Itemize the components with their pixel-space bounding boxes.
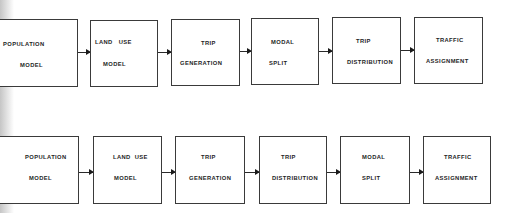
box-label-line2: GENERATION — [180, 60, 239, 66]
box-modal-split: MODAL SPLIT — [340, 136, 410, 204]
box-land-use-model: LAND USE MODEL — [93, 136, 162, 204]
arrow-right — [79, 172, 93, 173]
box-label-line2: MODEL — [103, 61, 157, 67]
box-trip-generation: TRIP GENERATION — [175, 136, 245, 204]
box-label-line2: ASSIGNMENT — [435, 175, 490, 181]
box-label-line1: TRIP — [201, 154, 244, 160]
box-label-line1: TRIP — [281, 154, 326, 160]
arrow-right — [162, 172, 175, 173]
box-label-line2: DISTRIBUTION — [272, 175, 326, 181]
arrow-right — [319, 51, 332, 52]
box-traffic-assignment: TRAFFIC ASSIGNMENT — [423, 136, 491, 204]
box-label-line2: MODEL — [29, 175, 78, 181]
arrow-right — [327, 172, 340, 173]
box-label-line1: POPULATION — [3, 41, 77, 47]
box-population-model: POPULATION MODEL — [0, 136, 79, 204]
box-population-model: POPULATION MODEL — [0, 19, 78, 87]
box-label-line1: TRIP — [201, 40, 239, 46]
box-traffic-assignment: TRAFFIC ASSIGNMENT — [414, 17, 483, 84]
box-label-line2: DISTRIBUTION — [347, 59, 400, 65]
box-trip-distribution: TRIP DISTRIBUTION — [332, 17, 401, 84]
box-label-line2: SPLIT — [362, 175, 409, 181]
arrow-right — [401, 50, 414, 51]
arrow-right — [240, 51, 251, 52]
box-label-line1: MODAL — [271, 39, 318, 45]
arrow-right — [245, 172, 259, 173]
box-label-line1: LAND USE — [113, 154, 161, 160]
box-label-line1: POPULATION — [25, 154, 78, 160]
box-label-line2: GENERATION — [189, 175, 244, 181]
box-label-line1: LAND USE — [95, 39, 157, 45]
arrow-right — [410, 172, 423, 173]
box-label-line1: TRAFFIC — [444, 154, 490, 160]
box-label-line2: ASSIGNMENT — [426, 58, 482, 64]
arrow-right — [78, 52, 90, 53]
box-label-line2: MODEL — [20, 62, 77, 68]
box-label-line1: TRAFFIC — [436, 37, 482, 43]
box-label-line1: TRIP — [356, 38, 400, 44]
box-label-line2: SPLIT — [269, 60, 318, 66]
box-trip-distribution: TRIP DISTRIBUTION — [259, 136, 327, 204]
box-land-use-model: LAND USE MODEL — [90, 20, 158, 87]
box-modal-split: MODAL SPLIT — [251, 18, 319, 85]
box-label-line1: MODAL — [362, 154, 409, 160]
box-label-line2: MODEL — [114, 175, 161, 181]
arrow-right — [158, 52, 171, 53]
box-trip-generation: TRIP GENERATION — [171, 19, 240, 86]
